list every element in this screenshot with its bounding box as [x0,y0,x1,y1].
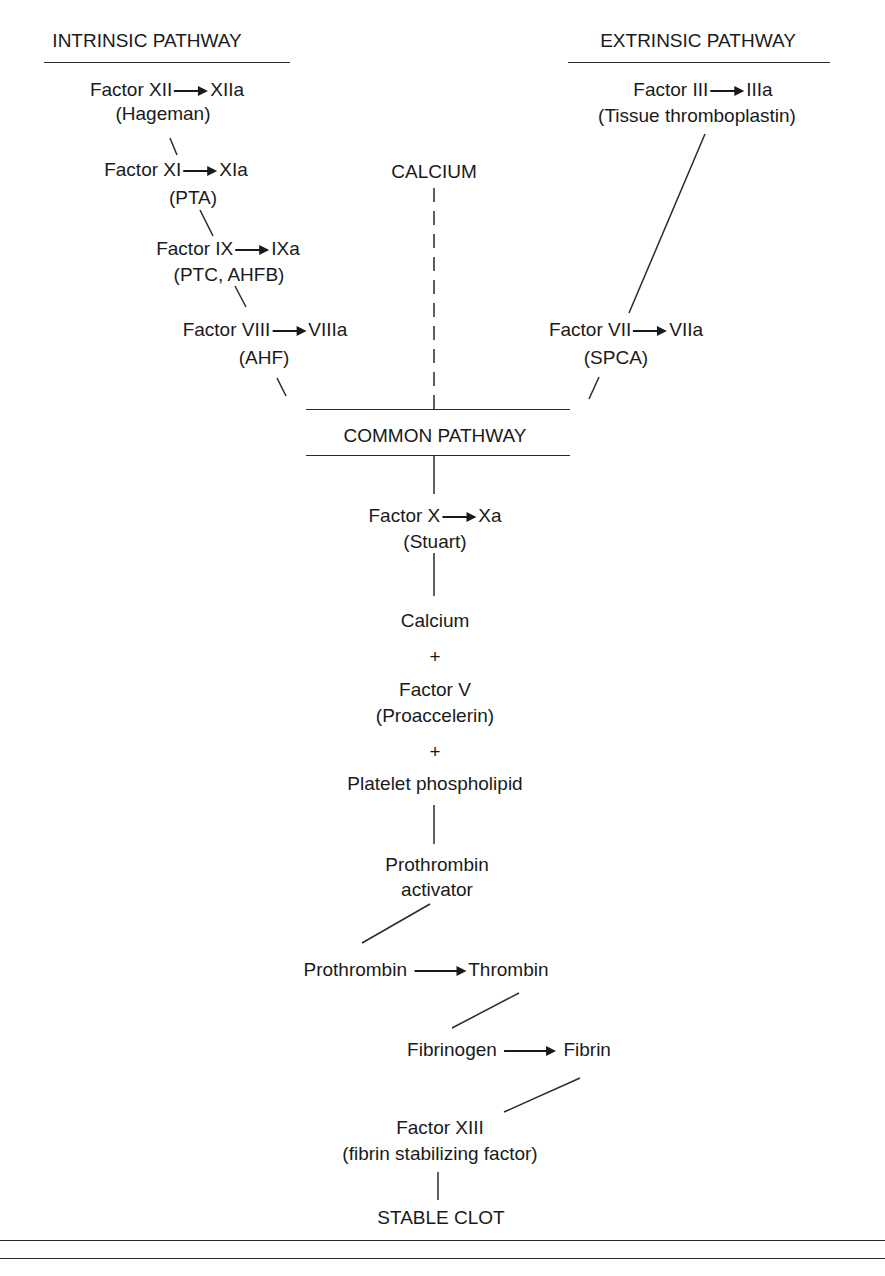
node-from: Factor XII [90,79,172,100]
plus-sign-2: + [429,740,440,764]
node-to: IIIa [746,79,772,100]
intrinsic-node-factor-viii: Factor VIIIVIIIa [183,318,348,342]
common-pathway-heading: COMMON PATHWAY [344,424,527,448]
extrinsic-node-factor-iii: Factor IIIIIIa [633,78,772,102]
extrinsic-node-factor-vii: Factor VIIVIIa [549,318,703,342]
arrow-icon [235,245,269,255]
plus-sign-1: + [429,645,440,669]
node-from: Prothrombin [303,959,407,980]
node-to: VIIa [669,319,703,340]
arrow-icon [174,86,208,96]
node-from: Factor X [368,505,440,526]
calcium-heading: CALCIUM [391,160,477,184]
intrinsic-alias-pta: (PTA) [169,186,217,210]
node-to: IXa [271,238,300,259]
common-rule-bottom [306,455,570,456]
arrow-icon [183,166,217,176]
node-to: XIIa [210,79,244,100]
node-from: Factor III [633,79,708,100]
common-alias-proaccelerin: (Proaccelerin) [376,704,494,728]
node-from: Factor XI [104,159,181,180]
extrinsic-pathway-heading: EXTRINSIC PATHWAY [600,29,796,53]
node-to: Fibrin [563,1039,611,1060]
arrow-icon [272,326,306,336]
intrinsic-pathway-heading: INTRINSIC PATHWAY [52,29,241,53]
common-alias-stuart: (Stuart) [403,530,466,554]
common-calcium: Calcium [401,609,470,633]
intrinsic-alias-ptc-ahfb: (PTC, AHFB) [174,263,285,287]
common-node-factor-x: Factor XXa [368,504,501,528]
arrow-icon [442,512,476,522]
common-factor-xiii: Factor XIII [396,1116,484,1140]
fibrinogen-to-fibrin: Fibrinogen Fibrin [407,1038,611,1062]
intrinsic-node-factor-xii: Factor XIIXIIa [90,78,244,102]
node-from: Factor VII [549,319,631,340]
intrinsic-alias-ahf: (AHF) [239,346,290,370]
node-to: Xa [478,505,501,526]
intrinsic-alias-hageman: (Hageman) [115,102,210,126]
prothrombin-activator-line2: activator [401,878,473,902]
extrinsic-alias-spca: (SPCA) [584,346,648,370]
intrinsic-rule [44,62,290,63]
common-alias-fibrin-stabilizing-factor: (fibrin stabilizing factor) [342,1142,537,1166]
arrow-icon [633,326,667,336]
node-to: XIa [219,159,248,180]
node-from: Factor IX [156,238,233,259]
prothrombin-to-thrombin: Prothrombin Thrombin [303,958,548,982]
node-from: Fibrinogen [407,1039,497,1060]
connector-lines [0,0,885,1276]
caption-rule-top [0,1240,885,1241]
node-to: Thrombin [468,959,548,980]
common-factor-v: Factor V [399,678,471,702]
arrow-icon [710,86,744,96]
intrinsic-node-factor-xi: Factor XIXIa [104,158,248,182]
arrow-icon [504,1046,556,1056]
prothrombin-activator-line1: Prothrombin [385,853,489,877]
extrinsic-alias-tissue-thromboplastin: (Tissue thromboplastin) [598,104,796,128]
stable-clot-label: STABLE CLOT [377,1206,504,1230]
extrinsic-rule [568,62,830,63]
node-to: VIIIa [308,319,347,340]
common-rule-top [306,409,570,410]
common-platelet-phospholipid: Platelet phospholipid [347,772,522,796]
arrow-icon [414,966,466,976]
node-from: Factor VIII [183,319,271,340]
caption-rule-bottom [0,1258,885,1259]
intrinsic-node-factor-ix: Factor IXIXa [156,237,300,261]
